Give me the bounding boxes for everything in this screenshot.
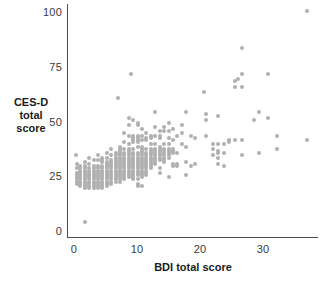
data-point [127, 134, 131, 138]
data-point [136, 184, 140, 188]
data-point [189, 134, 193, 138]
x-axis-ticks: 0102030 [0, 244, 323, 258]
data-point [211, 153, 215, 157]
y-tick-label: 100 [28, 7, 62, 18]
data-point [109, 147, 113, 151]
data-point [127, 116, 131, 120]
data-point [118, 180, 122, 184]
data-point [162, 160, 166, 164]
x-tick-label: 30 [257, 244, 270, 255]
data-point [184, 110, 188, 114]
data-point [140, 134, 144, 138]
y-axis-title-line-1: CES-D [2, 96, 60, 109]
data-point [136, 140, 140, 144]
y-axis-title: CES-D total score [2, 96, 60, 135]
data-point [83, 186, 87, 190]
data-point [167, 156, 171, 160]
data-point [114, 180, 118, 184]
data-point [105, 156, 109, 160]
data-point [193, 136, 197, 140]
x-axis-line [67, 237, 318, 238]
data-point [167, 142, 171, 146]
data-point [136, 123, 140, 127]
x-tick-label: 20 [194, 244, 207, 255]
data-point [92, 186, 96, 190]
data-point [158, 129, 162, 133]
data-point [167, 136, 171, 140]
data-point [83, 160, 87, 164]
y-tick-label: 0 [28, 226, 62, 237]
data-point [184, 160, 188, 164]
data-point [211, 147, 215, 151]
data-point [184, 145, 188, 149]
data-point [240, 72, 244, 76]
data-point [189, 164, 193, 168]
data-point [105, 151, 109, 155]
data-point [240, 46, 244, 50]
y-axis-ticks: 0255075100 [28, 0, 62, 285]
y-axis-title-line-2: total [2, 109, 60, 122]
data-point [87, 156, 91, 160]
data-point [240, 138, 244, 142]
data-point [131, 147, 135, 151]
data-point [96, 158, 100, 162]
data-point [171, 138, 175, 142]
data-point [136, 173, 140, 177]
data-point [149, 136, 153, 140]
data-point [180, 123, 184, 127]
data-point [105, 184, 109, 188]
x-axis-title: BDI total score [68, 261, 318, 273]
data-point [175, 134, 179, 138]
data-point [136, 145, 140, 149]
data-point [140, 184, 144, 188]
data-point [167, 121, 171, 125]
data-point [158, 171, 162, 175]
data-point [167, 175, 171, 179]
y-tick-label: 25 [28, 171, 62, 182]
data-point [257, 110, 261, 114]
data-point [153, 110, 157, 114]
data-point [109, 182, 113, 186]
data-point [153, 134, 157, 138]
plot-area [68, 4, 318, 237]
x-tick-label: 10 [131, 244, 144, 255]
data-point [240, 153, 244, 157]
data-point [305, 9, 309, 13]
data-point [202, 90, 206, 94]
data-point [127, 123, 131, 127]
data-point [140, 138, 144, 142]
data-point [216, 156, 220, 160]
data-point [158, 158, 162, 162]
data-point [171, 127, 175, 131]
y-tick-label: 75 [28, 62, 62, 73]
data-point [92, 158, 96, 162]
scatter-plot-figure: 0255075100 0102030 CES-D total score BDI… [0, 0, 323, 285]
data-point [158, 136, 162, 140]
data-point [204, 134, 208, 138]
x-tick-label: 0 [71, 244, 77, 255]
data-point [167, 129, 171, 133]
y-axis-title-line-3: score [2, 122, 60, 135]
